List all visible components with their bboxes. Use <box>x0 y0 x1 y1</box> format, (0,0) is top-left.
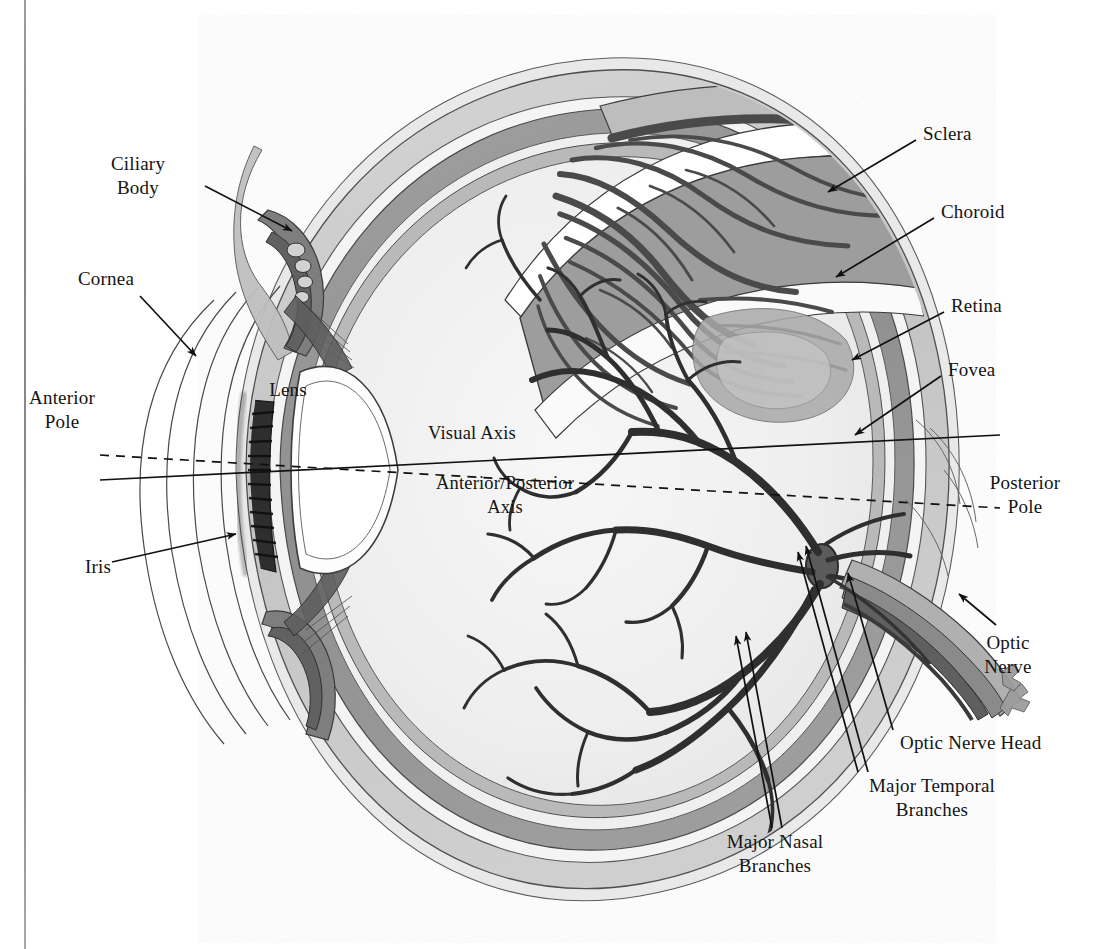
label-major-nasal-branches: Major Nasal Branches <box>700 830 850 878</box>
label-retina: Retina <box>951 294 1002 318</box>
iris-leader <box>112 534 236 562</box>
label-visual-axis: Visual Axis <box>428 421 516 445</box>
ciliary-body-leader <box>205 186 292 231</box>
label-anterior-pole: Anterior Pole <box>12 386 112 434</box>
label-choroid: Choroid <box>941 200 1005 224</box>
label-ciliary-body: Ciliary Body <box>88 152 188 200</box>
label-iris: Iris <box>85 555 111 579</box>
label-cornea: Cornea <box>78 267 134 291</box>
label-optic-nerve-head: Optic Nerve Head <box>900 731 1041 755</box>
label-posterior-pole: Posterior Pole <box>965 471 1085 519</box>
label-fovea: Fovea <box>948 358 995 382</box>
label-sclera: Sclera <box>923 122 972 146</box>
label-lens: Lens <box>258 378 318 402</box>
optic-nerve-leader <box>959 594 996 625</box>
label-optic-nerve: Optic Nerve <box>968 631 1048 679</box>
label-anterior-posterior-axis: Anterior/Posterior Axis <box>405 471 605 519</box>
label-major-temporal-branches: Major Temporal Branches <box>852 774 1012 822</box>
page-canvas: Ciliary Body Cornea Anterior Pole Iris L… <box>0 0 1093 949</box>
cornea-leader <box>140 296 196 356</box>
